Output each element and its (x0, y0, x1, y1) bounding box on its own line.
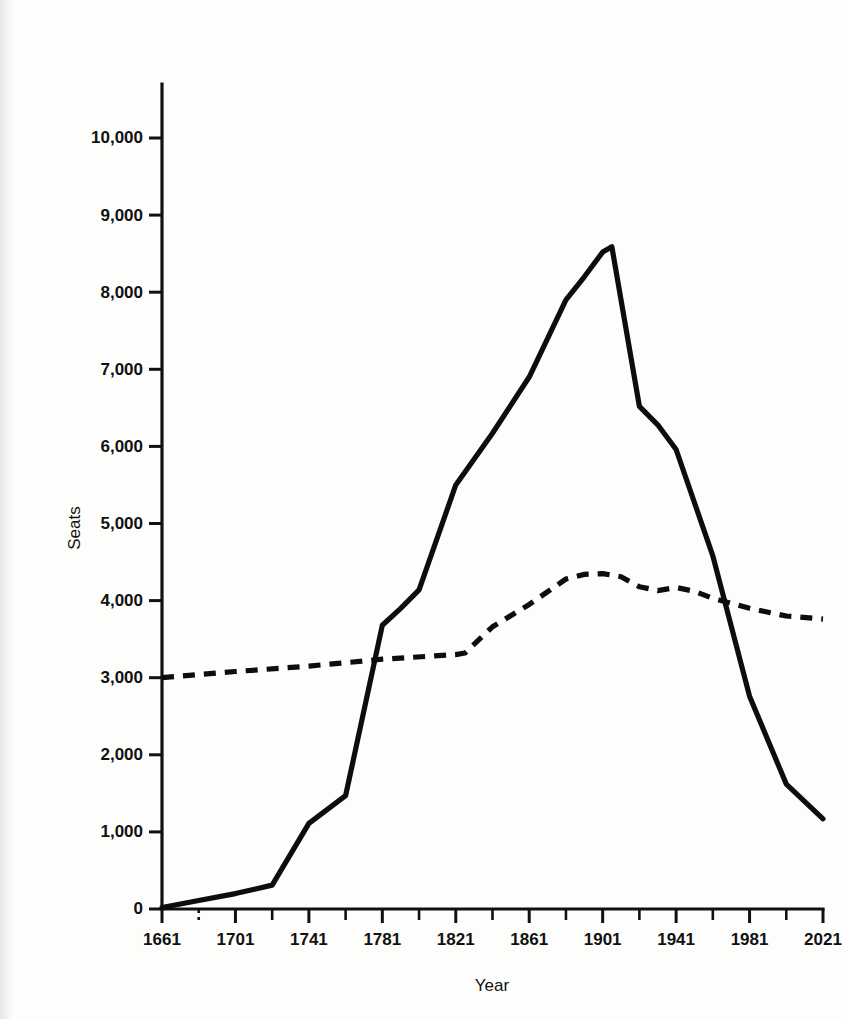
x-tick-label: 1981 (731, 930, 769, 949)
y-tick-label: 7,000 (100, 360, 143, 379)
x-axis-ticks (162, 909, 823, 923)
y-tick-label: 0 (134, 899, 143, 918)
x-tick-label: 1701 (217, 930, 255, 949)
x-tick-label: 1941 (657, 930, 695, 949)
y-tick-label: 9,000 (100, 206, 143, 225)
chart-plot-area: 01,0002,0003,0004,0005,0006,0007,0008,00… (40, 16, 847, 1019)
y-tick-label: 4,000 (100, 591, 143, 610)
x-tick-label: 1661 (143, 930, 181, 949)
y-tick-label: 3,000 (100, 668, 143, 687)
y-tick-label: 10,000 (91, 128, 143, 147)
x-tick-label: 2021 (804, 930, 842, 949)
y-axis-title: Seats (65, 506, 84, 549)
x-tick-label: 1741 (290, 930, 328, 949)
y-tick-label: 6,000 (100, 437, 143, 456)
x-tick-label: 1861 (510, 930, 548, 949)
x-axis-tick-labels: 1661170117411781182118611901194119812021 (143, 930, 842, 949)
y-tick-label: 1,000 (100, 822, 143, 841)
x-tick-label: 1781 (363, 930, 401, 949)
y-axis-tick-labels: 01,0002,0003,0004,0005,0006,0007,0008,00… (91, 128, 143, 918)
y-tick-label: 2,000 (100, 745, 143, 764)
x-axis-title: Year (475, 976, 510, 995)
x-tick-label: 1821 (437, 930, 475, 949)
y-axis-ticks (149, 138, 162, 909)
y-tick-label: 5,000 (100, 514, 143, 533)
series-solid-line (162, 247, 823, 908)
line-chart-figure: 01,0002,0003,0004,0005,0006,0007,0008,00… (40, 16, 847, 1019)
y-tick-label: 8,000 (100, 283, 143, 302)
x-tick-label: 1901 (584, 930, 622, 949)
